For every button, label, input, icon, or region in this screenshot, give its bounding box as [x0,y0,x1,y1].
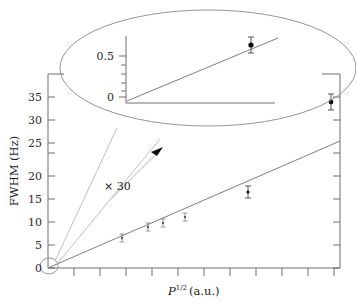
y-tick-label: 10 [28,216,42,229]
y-tick-label: 35 [28,91,42,104]
inset-y-tick-label: 0 [107,91,114,104]
magnification-label: × 30 [104,180,131,193]
y-tick-label: 15 [28,193,42,206]
y-tick-label: 20 [28,170,42,183]
inset-y-tick-labels: 0.5 0 [97,50,115,104]
y-tick-label: 5 [35,239,42,252]
y-tick-label: 0 [35,262,42,275]
y-tick-label: 30 [28,114,42,127]
x-axis-symbol: P [167,284,176,298]
x-axis-exponent: 1/2 [176,284,187,292]
y-axis-title: FWHM (Hz) [7,136,21,206]
svg-text:P1/2(a.u.): P1/2(a.u.) [167,284,220,298]
y-tick-label: 25 [28,137,42,150]
x-axis-title: P1/2(a.u.) [167,284,220,298]
x-axis-units: (a.u.) [189,284,220,298]
figure-text-layer: 35 30 25 20 15 10 5 0 FWHM (Hz) P1/2(a.u… [0,0,356,308]
figure-container: 35 30 25 20 15 10 5 0 FWHM (Hz) P1/2(a.u… [0,0,356,308]
y-tick-labels: 35 30 25 20 15 10 5 0 [28,91,42,275]
inset-y-tick-label: 0.5 [97,50,115,63]
